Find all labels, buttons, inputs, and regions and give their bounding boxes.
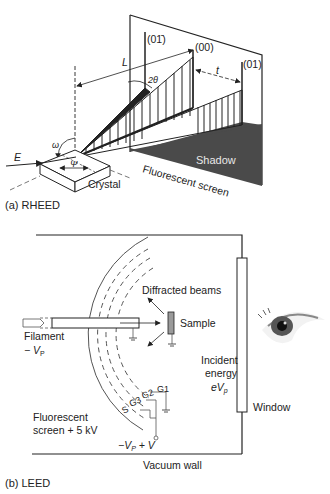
label-sample: Sample (180, 317, 216, 329)
caption-rheed: (a) RHEED (5, 199, 60, 211)
label-incident-energy-2: energy (205, 367, 238, 379)
label-angle-omega: ω (52, 140, 59, 150)
label-screen-2: screen + 5 kV (33, 424, 98, 436)
label-filament: Filament (24, 330, 64, 342)
label-grid-g1: G1 (157, 384, 169, 394)
window (237, 258, 247, 412)
shadow-label: Shadow (196, 154, 236, 166)
rheed-panel: Shadow (5, 15, 262, 211)
incident-beam (6, 163, 42, 166)
label-incident-energy-3: eVp (211, 381, 228, 395)
label-retard-voltage: −VP + V (118, 439, 156, 452)
diffracted-beam-down (148, 332, 164, 346)
label-distance-L: L (122, 56, 128, 68)
label-grid-g2: G2 (140, 387, 155, 401)
label-crystal: Crystal (88, 178, 121, 190)
diffracted-beam-up (148, 298, 164, 314)
label-incident-energy-1: Incident (201, 354, 238, 366)
screen-and-grids (88, 237, 153, 430)
label-screen-1: Fluorescent (33, 411, 88, 423)
label-beam-01: (01) (243, 58, 262, 70)
caption-leed: (b) LEED (5, 477, 50, 489)
label-angle-psi: Ψ (70, 159, 78, 169)
diffraction-figure: Shadow (0, 0, 330, 494)
sample (168, 312, 174, 334)
leed-panel: Vacuum wall Window Filament − VP (5, 235, 325, 489)
filament (23, 319, 44, 327)
eye-icon (258, 308, 325, 343)
label-angle-2theta: 2θ (147, 75, 158, 85)
label-window: Window (253, 401, 291, 413)
label-grid-g3: G3 (128, 395, 143, 409)
grid-g2 (106, 258, 150, 408)
label-vacuum-wall: Vacuum wall (143, 459, 202, 471)
label-beam-01bar: (01̄) (147, 33, 166, 45)
label-filament-voltage: − VP (24, 344, 45, 357)
label-diffracted-beams: Diffracted beams (142, 284, 221, 296)
label-spacing-t: t (216, 64, 220, 76)
label-beam-00: (00) (195, 41, 214, 53)
label-energy-E: E (14, 151, 22, 163)
